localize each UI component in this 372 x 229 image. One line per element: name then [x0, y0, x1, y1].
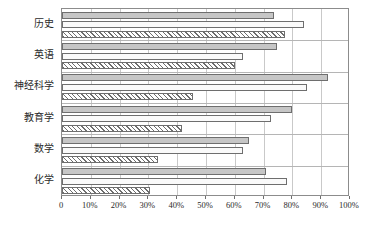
- bar-英语-series-1: [62, 43, 277, 50]
- x-tick-50%: [205, 196, 206, 199]
- x-tick-label-90%: 90%: [312, 200, 328, 210]
- x-axis: 010%20%30%40%50%60%70%80%90%100%: [61, 196, 349, 220]
- gridline-90%: [321, 9, 322, 195]
- y-axis-label-教育学: 教育学: [24, 112, 54, 123]
- y-axis-category-labels: 历史英语神经科学教育学数学化学: [0, 8, 57, 196]
- x-tick-label-30%: 30%: [140, 200, 156, 210]
- x-tick-label-20%: 20%: [111, 200, 127, 210]
- x-tick-label-40%: 40%: [168, 200, 184, 210]
- group-separator: [62, 103, 348, 104]
- x-tick-20%: [119, 196, 120, 199]
- x-tick-0: [61, 196, 62, 199]
- bar-英语-series-2: [62, 53, 243, 60]
- bar-英语-series-3: [62, 62, 235, 69]
- bar-数学-series-2: [62, 147, 243, 154]
- x-tick-80%: [291, 196, 292, 199]
- x-tick-10%: [90, 196, 91, 199]
- bar-化学-series-1: [62, 168, 266, 175]
- plot-area: [61, 8, 349, 196]
- y-axis-label-数学: 数学: [34, 143, 54, 154]
- x-tick-30%: [147, 196, 148, 199]
- x-tick-90%: [320, 196, 321, 199]
- bar-教育学-series-2: [62, 115, 271, 122]
- y-axis-label-英语: 英语: [34, 49, 54, 60]
- x-tick-label-0: 0: [59, 200, 63, 210]
- bar-教育学-series-3: [62, 125, 182, 132]
- gridline-80%: [292, 9, 293, 195]
- y-axis-label-化学: 化学: [34, 174, 54, 185]
- x-tick-40%: [176, 196, 177, 199]
- x-tick-label-70%: 70%: [255, 200, 271, 210]
- x-tick-70%: [263, 196, 264, 199]
- bar-神经科学-series-1: [62, 74, 328, 81]
- x-tick-label-50%: 50%: [197, 200, 213, 210]
- y-axis-label-历史: 历史: [34, 18, 54, 29]
- bar-教育学-series-1: [62, 106, 292, 113]
- bar-数学-series-3: [62, 156, 158, 163]
- bar-神经科学-series-2: [62, 84, 307, 91]
- bar-历史-series-3: [62, 31, 285, 38]
- group-separator: [62, 72, 348, 73]
- y-axis-label-神经科学: 神经科学: [14, 80, 54, 91]
- x-tick-label-100%: 100%: [339, 200, 359, 210]
- bar-历史-series-2: [62, 21, 304, 28]
- horizontal-bar-chart: 历史英语神经科学教育学数学化学 010%20%30%40%50%60%70%80…: [0, 0, 372, 229]
- bar-神经科学-series-3: [62, 93, 193, 100]
- bar-历史-series-1: [62, 12, 274, 19]
- bar-数学-series-1: [62, 137, 249, 144]
- bar-化学-series-3: [62, 187, 150, 194]
- group-separator: [62, 134, 348, 135]
- x-tick-label-10%: 10%: [82, 200, 98, 210]
- x-tick-60%: [234, 196, 235, 199]
- x-tick-label-80%: 80%: [284, 200, 300, 210]
- x-tick-label-60%: 60%: [226, 200, 242, 210]
- x-tick-100%: [349, 196, 350, 199]
- bar-化学-series-2: [62, 178, 287, 185]
- group-separator: [62, 166, 348, 167]
- group-separator: [62, 40, 348, 41]
